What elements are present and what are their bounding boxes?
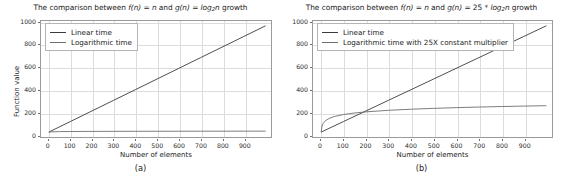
ytick-label-b-1000: 1000: [288, 19, 308, 25]
chart-panel-a: The comparison between f(n) = n and g(n)…: [0, 0, 281, 185]
title-fn-b: f(n): [401, 3, 414, 12]
xtick-mark-a-100: [70, 139, 71, 142]
title-log-a: log: [201, 3, 212, 12]
ytick-label-b-800: 800: [288, 41, 308, 47]
title-logsub-b: 2: [502, 6, 505, 12]
xtick-mark-a-900: [245, 139, 246, 142]
legend-item-linear-a: Linear time: [50, 27, 132, 37]
x-axis-label-a: Number of elements: [40, 151, 272, 159]
xtick-mark-b-600: [457, 139, 458, 142]
chart-title-a: The comparison between f(n) = n and g(n)…: [0, 3, 281, 13]
title-mid2-b: and: [429, 3, 447, 12]
ytick-label-b-0: 0: [288, 133, 308, 139]
xtick-mark-a-600: [179, 139, 180, 142]
ytick-label-a-0: 0: [16, 133, 36, 139]
line-logarithmic-time-a: [49, 131, 266, 132]
xtick-mark-a-700: [201, 139, 202, 142]
legend-swatch-logarithmic-b: [322, 42, 338, 43]
legend-item-linear-b: Linear time: [322, 27, 508, 37]
x-axis-label-b: Number of elements: [312, 151, 553, 159]
xtick-label-a-900: 900: [231, 143, 259, 149]
legend-item-logarithmic-a: Logarithmic time: [50, 37, 132, 47]
title-logsub-a: 2: [212, 6, 215, 12]
title-fn-a: f(n): [128, 3, 141, 12]
subcaption-a: (a): [0, 163, 281, 173]
subcaption-b: (b): [281, 163, 562, 173]
title-mid3-a: =: [190, 3, 201, 12]
legend-swatch-logarithmic-a: [50, 42, 66, 43]
xtick-mark-b-800: [502, 139, 503, 142]
xtick-mark-b-0: [320, 139, 321, 142]
title-gn-b: g(n): [447, 3, 462, 12]
line-logarithmic-time-b: [321, 106, 546, 133]
ytick-label-b-400: 400: [288, 87, 308, 93]
ytick-label-b-200: 200: [288, 110, 308, 116]
title-post-b: growth: [510, 3, 538, 12]
xtick-mark-b-500: [434, 139, 435, 142]
legend-b: Linear time Logarithmic time with 25X co…: [317, 23, 514, 51]
xtick-mark-b-700: [479, 139, 480, 142]
title-mid1-b: =: [413, 3, 424, 12]
title-mid3-b: = 25 *: [462, 3, 490, 12]
xtick-label-b-900: 900: [511, 143, 539, 149]
xtick-mark-a-400: [135, 139, 136, 142]
title-text-pre-a: The comparison between: [34, 3, 129, 12]
legend-label-linear-a: Linear time: [71, 28, 112, 37]
legend-label-linear-b: Linear time: [343, 28, 384, 37]
legend-a: Linear time Logarithmic time: [45, 23, 138, 51]
xtick-mark-a-200: [92, 139, 93, 142]
xtick-mark-a-300: [113, 139, 114, 142]
xtick-mark-b-300: [388, 139, 389, 142]
legend-swatch-linear-b: [322, 32, 338, 33]
xtick-mark-a-0: [48, 139, 49, 142]
title-mid2-a: and: [157, 3, 175, 12]
ytick-label-b-600: 600: [288, 64, 308, 70]
title-gn-a: g(n): [175, 3, 190, 12]
legend-item-logarithmic-b: Logarithmic time with 25X constant multi…: [322, 37, 508, 47]
chart-panel-b: The comparison between f(n) = n and g(n)…: [281, 0, 562, 185]
ytick-label-a-800: 800: [16, 41, 36, 47]
title-text-pre-b: The comparison between: [306, 3, 401, 12]
chart-title-b: The comparison between f(n) = n and g(n)…: [281, 3, 562, 13]
xtick-mark-b-200: [366, 139, 367, 142]
title-log-b: log: [490, 3, 501, 12]
legend-label-logarithmic-b: Logarithmic time with 25X constant multi…: [343, 38, 508, 47]
ytick-label-a-1000: 1000: [16, 19, 36, 25]
legend-label-logarithmic-a: Logarithmic time: [71, 38, 132, 47]
xtick-mark-b-400: [411, 139, 412, 142]
y-axis-label-a: Function value: [13, 66, 21, 117]
title-mid1-a: =: [141, 3, 152, 12]
xtick-mark-a-800: [223, 139, 224, 142]
xtick-mark-b-100: [343, 139, 344, 142]
figure-container: The comparison between f(n) = n and g(n)…: [0, 0, 563, 185]
xtick-mark-a-500: [157, 139, 158, 142]
legend-swatch-linear-a: [50, 32, 66, 33]
xtick-mark-b-900: [525, 139, 526, 142]
title-post-a: growth: [220, 3, 248, 12]
